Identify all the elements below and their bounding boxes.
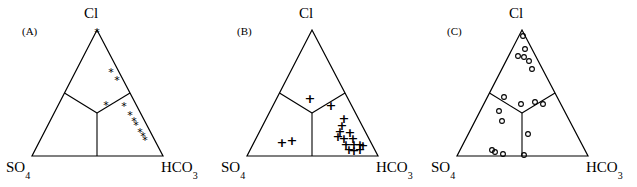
- so4-sub: 4: [240, 170, 245, 181]
- data-point: [500, 119, 505, 124]
- data-point: [516, 54, 521, 59]
- so4-main: SO: [431, 159, 450, 175]
- so4-sub: 4: [450, 170, 455, 181]
- data-point: [497, 109, 502, 114]
- panel-tag: (A): [22, 26, 37, 37]
- so4-main: SO: [6, 159, 25, 175]
- panel-tag: (C): [447, 26, 462, 37]
- panel-tag: (B): [237, 26, 252, 37]
- so4-main: SO: [221, 159, 240, 175]
- data-point: *: [103, 99, 109, 112]
- apex-label-text: Cl: [299, 5, 313, 21]
- so4-sub: 4: [25, 170, 30, 181]
- data-point: [530, 67, 535, 72]
- data-markers: + + + + + + + + + + + + + + + + + +: [277, 91, 369, 158]
- data-point: *: [142, 134, 148, 147]
- apex-label-cl: Cl: [425, 6, 637, 21]
- data-point: +: [305, 91, 316, 106]
- hco3-sub: 3: [193, 170, 198, 181]
- ternary-diagram-figure: * * * * * * * * * * * (A) Cl SO4 HCO3: [0, 0, 637, 187]
- data-point: +: [333, 129, 344, 144]
- apex-label-cl: Cl: [215, 6, 427, 21]
- data-point: +: [326, 98, 337, 113]
- data-point: [522, 55, 527, 60]
- hco3-main: HCO: [586, 159, 618, 175]
- data-point: [523, 47, 528, 52]
- axis-label-hco3: HCO3: [376, 160, 413, 178]
- hco3-main: HCO: [376, 159, 408, 175]
- apex-label-cl: Cl: [0, 6, 212, 21]
- data-point: [527, 59, 532, 64]
- data-point: [541, 102, 546, 107]
- partition-line-left: [65, 93, 98, 113]
- data-point: [519, 102, 524, 107]
- axis-label-hco3: HCO3: [586, 160, 623, 178]
- data-point: [533, 100, 538, 105]
- hco3-sub: 3: [618, 170, 623, 181]
- data-point: *: [94, 26, 100, 39]
- axis-label-so4: SO4: [221, 160, 245, 178]
- data-point: [526, 132, 531, 137]
- hco3-sub: 3: [408, 170, 413, 181]
- panel-b: + + + + + + + + + + + + + + + + + + (B) …: [215, 0, 427, 187]
- apex-label-text: Cl: [84, 5, 98, 21]
- hco3-main: HCO: [161, 159, 193, 175]
- partition-line-right: [522, 93, 555, 113]
- apex-label-text: Cl: [509, 5, 523, 21]
- data-point: [502, 95, 507, 100]
- panel-a: * * * * * * * * * * * (A) Cl SO4 HCO3: [0, 0, 212, 187]
- data-point: +: [358, 138, 369, 153]
- axis-label-so4: SO4: [431, 160, 455, 178]
- axis-label-so4: SO4: [6, 160, 30, 178]
- data-point: +: [287, 133, 298, 148]
- data-markers: * * * * * * * * * * *: [94, 26, 148, 147]
- axis-label-hco3: HCO3: [161, 160, 198, 178]
- data-point: *: [114, 74, 120, 87]
- panel-c: (C) Cl SO4 HCO3: [425, 0, 637, 187]
- data-markers: [490, 34, 546, 158]
